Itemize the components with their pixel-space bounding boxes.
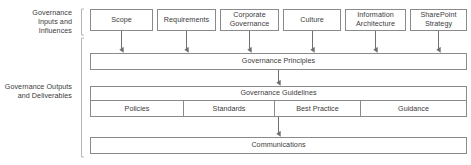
guideline-cells-row: Policies Standards Best Practice Guidanc…	[90, 101, 467, 117]
section-label-inputs-line2: Inputs and	[0, 17, 72, 26]
node-scope-label: Scope	[109, 16, 134, 25]
cell-guidance-label: Guidance	[398, 104, 429, 113]
section-label-inputs-line3: Influences	[0, 26, 72, 35]
node-sharepoint-strategy-line2: Strategy	[418, 20, 458, 29]
cell-policies[interactable]: Policies	[91, 101, 184, 116]
node-culture-label: Culture	[298, 16, 326, 25]
node-governance-principles-label: Governance Principles	[240, 57, 317, 66]
node-culture[interactable]: Culture	[283, 9, 341, 31]
section-bracket-outputs	[82, 38, 85, 157]
section-label-inputs-line1: Governance	[0, 8, 72, 17]
node-requirements[interactable]: Requirements	[157, 9, 216, 31]
cell-policies-label: Policies	[125, 104, 150, 113]
node-corporate-governance-line2: Governance	[228, 20, 272, 29]
node-governance-principles[interactable]: Governance Principles	[90, 53, 467, 70]
cell-standards-label: Standards	[213, 104, 246, 113]
node-corporate-governance[interactable]: Corporate Governance	[220, 9, 279, 31]
node-information-architecture[interactable]: Information Architecture	[345, 9, 406, 31]
cell-guidance[interactable]: Guidance	[361, 101, 466, 116]
section-label-outputs-line1: Governance Outputs	[0, 82, 72, 91]
node-sharepoint-strategy[interactable]: SharePoint Strategy	[410, 9, 467, 31]
node-information-architecture-label: Information Architecture	[352, 11, 399, 28]
node-communications-label: Communications	[249, 141, 307, 150]
cell-best-practice[interactable]: Best Practice	[275, 101, 361, 116]
node-scope[interactable]: Scope	[90, 9, 153, 31]
node-governance-guidelines-label: Governance Guidelines	[238, 89, 318, 98]
node-sharepoint-strategy-label: SharePoint Strategy	[416, 11, 460, 28]
node-communications[interactable]: Communications	[90, 137, 467, 154]
node-requirements-label: Requirements	[162, 16, 211, 25]
governance-model-diagram: Governance Inputs and Influences Governa…	[0, 0, 471, 165]
section-bracket-inputs	[82, 9, 85, 35]
cell-standards[interactable]: Standards	[184, 101, 275, 116]
cell-best-practice-label: Best Practice	[296, 104, 338, 113]
section-label-outputs-line2: and Deliverables	[0, 91, 72, 100]
node-governance-guidelines[interactable]: Governance Guidelines	[90, 86, 467, 101]
section-label-outputs: Governance Outputs and Deliverables	[0, 82, 72, 100]
section-label-inputs: Governance Inputs and Influences	[0, 8, 72, 36]
node-information-architecture-line2: Architecture	[354, 20, 397, 29]
input-connectors	[122, 31, 439, 50]
node-corporate-governance-label: Corporate Governance	[226, 11, 274, 28]
